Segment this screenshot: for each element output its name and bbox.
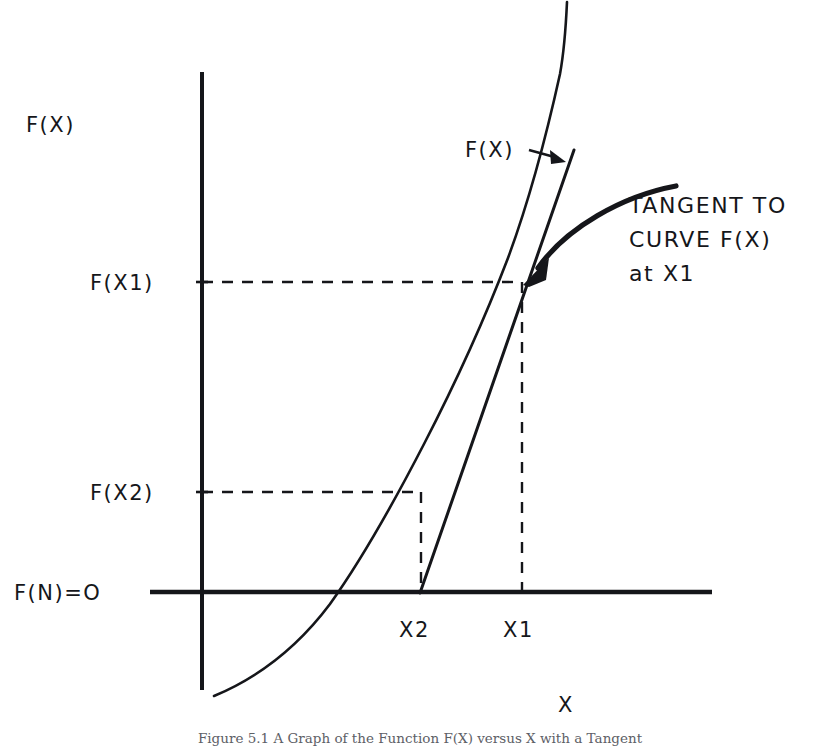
label-f-x1: F(X1) (90, 271, 154, 295)
tangent-annotation-line-3: at X1 (629, 261, 695, 286)
curve-label: F(X) (465, 138, 514, 162)
tangent-annotation-line-2: CURVE F(X) (629, 227, 771, 252)
figure-caption: Figure 5.1 A Graph of the Function F(X) … (0, 729, 840, 748)
y-axis-label: F(X) (26, 113, 75, 137)
newton-method-figure: F(X) TANGENT TO CURVE F(X) at X1 F(X) X … (0, 0, 840, 748)
curve-label-arrow-head (550, 150, 566, 164)
label-zero-level: F(N)=O (14, 581, 101, 605)
x-axis-label: X (558, 693, 574, 717)
label-x1: X1 (503, 618, 534, 642)
label-f-x2: F(X2) (90, 481, 154, 505)
tangent-line (420, 150, 574, 593)
figure-page: F(X) TANGENT TO CURVE F(X) at X1 F(X) X … (0, 0, 840, 748)
label-x2: X2 (399, 618, 430, 642)
tangent-annotation-line-1: TANGENT TO (628, 193, 787, 218)
